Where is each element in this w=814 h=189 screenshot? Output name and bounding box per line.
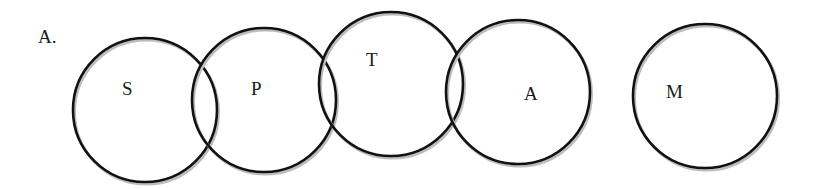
set-circle-s: S bbox=[73, 38, 219, 184]
set-circle-m: M bbox=[633, 24, 779, 170]
set-circle-a: A bbox=[446, 20, 592, 166]
set-circle-p: P bbox=[192, 28, 338, 174]
diagram-title: A. bbox=[38, 26, 56, 47]
circle-outline bbox=[192, 28, 336, 172]
set-label: P bbox=[251, 78, 262, 99]
circle-outline bbox=[446, 20, 590, 164]
circle-outline bbox=[633, 24, 777, 168]
circle-outline bbox=[319, 12, 463, 156]
set-label: T bbox=[366, 49, 378, 70]
set-circle-t: T bbox=[319, 12, 465, 158]
venn-diagram: A. SPTAM bbox=[0, 0, 814, 189]
set-label: A bbox=[524, 83, 538, 104]
set-label: S bbox=[122, 78, 133, 99]
set-label: M bbox=[666, 81, 683, 102]
